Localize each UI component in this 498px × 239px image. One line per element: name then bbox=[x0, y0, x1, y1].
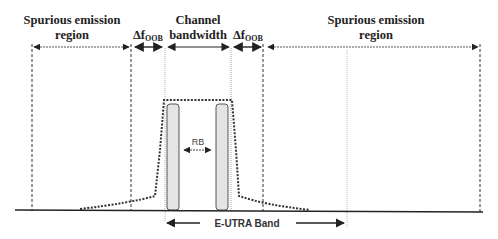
spurious-right-label: Spurious emission region bbox=[328, 13, 425, 42]
svg-text:Channel: Channel bbox=[175, 13, 221, 27]
svg-text:ΔfOOB: ΔfOOB bbox=[133, 28, 163, 43]
oob-left-label: ΔfOOB bbox=[133, 28, 163, 43]
svg-text:region: region bbox=[55, 28, 89, 42]
svg-text:Spurious emission: Spurious emission bbox=[328, 13, 425, 27]
rb-label: RB bbox=[192, 137, 205, 147]
frequency-axis-baseline bbox=[15, 210, 483, 212]
svg-text:bandwidth: bandwidth bbox=[169, 28, 227, 42]
eutra-band-label: E-UTRA Band bbox=[214, 218, 279, 229]
oob-right-label: ΔfOOB bbox=[233, 28, 263, 43]
spurious-left-label: Spurious emission region bbox=[24, 13, 121, 42]
svg-text:region: region bbox=[359, 28, 393, 42]
spectrum-emission-diagram: Spurious emission region ΔfOOB Channel b… bbox=[0, 0, 498, 239]
resource-block-right bbox=[216, 104, 228, 210]
channel-bandwidth-label: Channel bandwidth bbox=[169, 13, 227, 42]
resource-block-left bbox=[167, 104, 179, 210]
svg-text:Spurious emission: Spurious emission bbox=[24, 13, 121, 27]
svg-text:ΔfOOB: ΔfOOB bbox=[233, 28, 263, 43]
spectrum-emission-mask bbox=[80, 100, 310, 210]
